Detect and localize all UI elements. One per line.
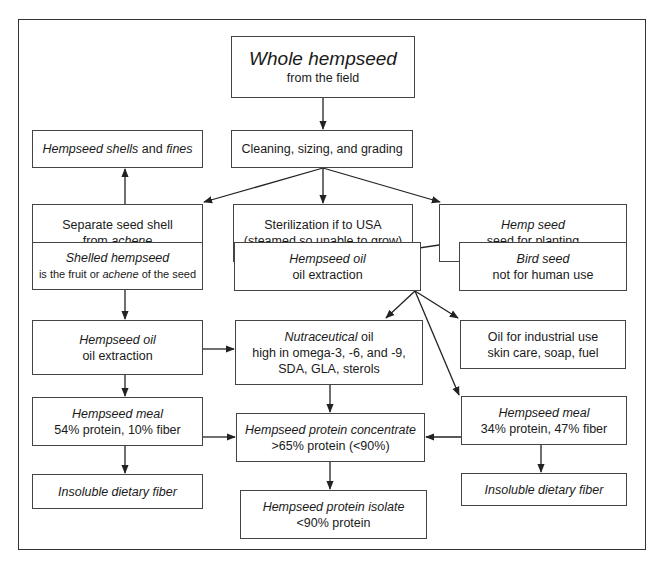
node-subtitle: oil extraction xyxy=(292,267,362,283)
node-cleaning: Cleaning, sizing, and grading xyxy=(231,130,413,168)
node-label: Cleaning, sizing, and grading xyxy=(241,141,402,157)
node-protein-isolate: Hempseed protein isolate <90% protein xyxy=(240,490,427,539)
node-title-b: fines xyxy=(166,142,192,156)
node-title: Bird seed xyxy=(517,251,570,267)
node-fiber-right: Insoluble dietary fiber xyxy=(461,473,627,506)
node-industrial-oil: Oil for industrial use skin care, soap, … xyxy=(460,320,626,369)
node-pre: is the fruit or xyxy=(39,268,103,280)
node-post: of the seed xyxy=(139,268,197,280)
node-line2: high in omega-3, -6, and -9, xyxy=(252,345,406,361)
node-subtitle: from the field xyxy=(287,70,359,86)
node-title: Insoluble dietary fiber xyxy=(485,482,604,498)
node-post: oil xyxy=(357,330,373,344)
node-hempseed-oil-mid: Hempseed oil oil extraction xyxy=(234,242,421,291)
node-line1: Sterilization if to USA xyxy=(264,217,381,233)
node-subtitle: <90% protein xyxy=(296,515,370,531)
node-subtitle: 34% protein, 47% fiber xyxy=(481,421,607,437)
node-subtitle: not for human use xyxy=(493,267,594,283)
node-line2: skin care, soap, fuel xyxy=(487,345,598,361)
node-title: Hempseed protein isolate xyxy=(263,499,405,515)
node-mid: and xyxy=(138,142,166,156)
node-title: Hempseed oil xyxy=(79,332,155,348)
node-subtitle: >65% protein (<90%) xyxy=(271,438,389,454)
node-title: Insoluble dietary fiber xyxy=(58,484,177,500)
node-nutraceutical-oil: Nutraceutical oil high in omega-3, -6, a… xyxy=(235,320,423,385)
node-whole-hempseed: Whole hempseed from the field xyxy=(231,36,415,98)
node-hempseed-meal-left: Hempseed meal 54% protein, 10% fiber xyxy=(32,397,203,446)
node-title: Hempseed meal xyxy=(72,406,163,422)
node-shells-fines: Hempseed shells and fines xyxy=(32,130,203,168)
node-bird-seed: Bird seed not for human use xyxy=(459,242,627,291)
node-fiber-left: Insoluble dietary fiber xyxy=(32,474,203,509)
node-title: Whole hempseed xyxy=(249,48,397,70)
node-title: Hempseed protein concentrate xyxy=(245,422,416,438)
node-line3: SDA, GLA, sterols xyxy=(278,361,379,377)
node-title: Hempseed oil xyxy=(289,251,365,267)
node-title: Shelled hempseed xyxy=(66,250,170,266)
node-subtitle: 54% protein, 10% fiber xyxy=(54,422,180,438)
node-line1: Separate seed shell xyxy=(62,217,173,233)
node-em: Nutraceutical xyxy=(285,330,358,344)
node-title: Hempseed meal xyxy=(498,405,589,421)
node-line1: Oil for industrial use xyxy=(488,329,598,345)
node-shelled-hempseed: Shelled hempseed is the fruit or achene … xyxy=(32,242,203,290)
node-subtitle: oil extraction xyxy=(82,348,152,364)
node-protein-concentrate: Hempseed protein concentrate >65% protei… xyxy=(236,413,425,462)
node-hempseed-meal-right: Hempseed meal 34% protein, 47% fiber xyxy=(461,396,627,445)
node-title-a: Hempseed shells xyxy=(42,142,138,156)
node-title: Hemp seed xyxy=(501,217,565,233)
node-em: achene xyxy=(102,268,138,280)
node-hempseed-oil-left: Hempseed oil oil extraction xyxy=(32,320,203,375)
